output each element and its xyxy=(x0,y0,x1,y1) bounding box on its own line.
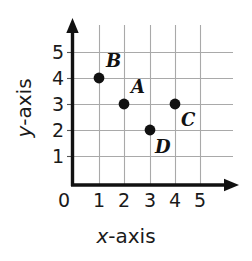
y-axis-title: y-axis xyxy=(14,58,34,158)
data-point-C xyxy=(170,99,181,110)
point-label-B: B xyxy=(106,52,121,70)
point-label-D: D xyxy=(155,138,171,156)
x-axis-title-var: x xyxy=(96,224,108,248)
y-tick-label-5: 5 xyxy=(46,43,64,62)
horizontal-gridlines xyxy=(72,53,233,157)
data-point-B xyxy=(94,73,105,84)
x-axis-title: x-axis xyxy=(0,226,252,246)
x-axis-title-rest: -axis xyxy=(108,224,155,248)
y-axis-title-var: y xyxy=(12,126,36,138)
y-axis-arrowhead xyxy=(66,18,78,33)
y-tick-label-2: 2 xyxy=(46,121,64,140)
x-tick-label-0: 0 xyxy=(53,191,75,210)
x-tick-label-1: 1 xyxy=(88,191,110,210)
x-tick-label-2: 2 xyxy=(113,191,135,210)
data-point-A xyxy=(119,99,130,110)
x-tick-label-3: 3 xyxy=(139,191,161,210)
point-label-C: C xyxy=(181,111,195,129)
x-tick-label-4: 4 xyxy=(164,191,186,210)
point-label-A: A xyxy=(131,78,145,96)
y-tick-label-4: 4 xyxy=(46,69,64,88)
y-tick-label-1: 1 xyxy=(46,147,64,166)
plot-canvas xyxy=(0,0,252,261)
chart-screenshot: 0 1 2 3 4 5 5 4 3 2 1 B A C D x-axis y-a… xyxy=(0,0,252,261)
data-point-D xyxy=(145,125,156,136)
y-axis-title-rest: -axis xyxy=(12,78,36,125)
scatter-plot: 0 1 2 3 4 5 5 4 3 2 1 B A C D x-axis y-a… xyxy=(0,0,252,261)
x-tick-label-5: 5 xyxy=(189,191,211,210)
x-axis-arrowhead xyxy=(224,179,239,191)
y-tick-label-3: 3 xyxy=(46,95,64,114)
